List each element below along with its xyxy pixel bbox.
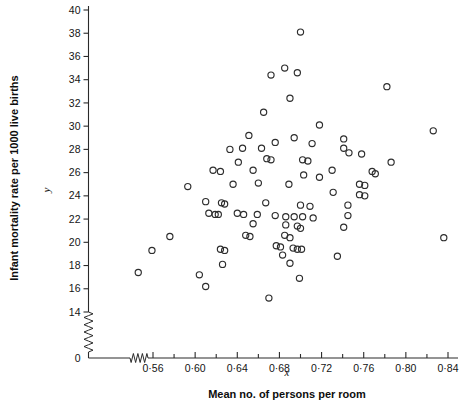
x-axis-title: Mean no. of persons per room [208, 388, 366, 400]
data-point [334, 253, 340, 259]
data-point [294, 70, 300, 76]
data-point [167, 233, 173, 239]
x-tick-label-4: 0·72 [311, 362, 332, 374]
data-point [345, 212, 351, 218]
data-point [230, 181, 236, 187]
y-tick-label-28: 28 [69, 143, 81, 155]
data-point [266, 295, 272, 301]
data-point [291, 214, 297, 220]
data-point [239, 145, 245, 151]
data-point [261, 109, 267, 115]
data-point [210, 167, 216, 173]
data-point [290, 245, 296, 251]
data-point [258, 145, 264, 151]
data-point [234, 210, 240, 216]
data-point [287, 95, 293, 101]
data-point [196, 272, 202, 278]
data-point [250, 221, 256, 227]
data-point [268, 72, 274, 78]
data-point [388, 159, 394, 165]
data-point [309, 140, 315, 146]
y-tick-label-20: 20 [69, 236, 81, 248]
data-point [227, 146, 233, 152]
y-axis-break-icon [84, 312, 93, 352]
data-point [272, 212, 278, 218]
data-point [341, 224, 347, 230]
y-tick-label-26: 26 [69, 166, 81, 178]
data-point [135, 269, 141, 275]
data-point [268, 157, 274, 163]
data-point [254, 211, 260, 217]
data-point [330, 189, 336, 195]
data-point [149, 247, 155, 253]
data-point [287, 260, 293, 266]
data-point [277, 244, 283, 250]
y-tick-label-32: 32 [69, 97, 81, 109]
x-tick-label-7: 0·84 [437, 362, 458, 374]
y-tick-label-16: 16 [69, 282, 81, 294]
data-point [301, 172, 307, 178]
data-point [283, 222, 289, 228]
data-point [286, 181, 292, 187]
data-point [185, 183, 191, 189]
data-point [279, 252, 285, 258]
y-tick-label-36: 36 [69, 50, 81, 62]
y-tick-label-30: 30 [69, 120, 81, 132]
data-point [297, 29, 303, 35]
x-tick-label-1: 0·60 [185, 362, 206, 374]
data-point [316, 122, 322, 128]
data-point [243, 232, 249, 238]
y-tick-label-38: 38 [69, 27, 81, 39]
x-axis-variable-label: x [284, 366, 290, 378]
data-point [263, 200, 269, 206]
data-point [310, 215, 316, 221]
data-point [287, 235, 293, 241]
y-tick-label-18: 18 [69, 259, 81, 271]
data-point [359, 151, 365, 157]
x-tick-label-6: 0·80 [395, 362, 416, 374]
data-point [296, 275, 302, 281]
data-point [247, 233, 253, 239]
x-tick-label-5: 0·76 [353, 362, 374, 374]
data-point [297, 202, 303, 208]
data-point [219, 261, 225, 267]
x-tick-label-0: 0·56 [142, 362, 163, 374]
data-point [203, 199, 209, 205]
data-point [217, 246, 223, 252]
data-point [235, 159, 241, 165]
data-point [307, 203, 313, 209]
data-point [300, 214, 306, 220]
data-point [222, 247, 228, 253]
data-point [298, 246, 304, 252]
y-axis-title: Infant mortality rate per 1000 live birt… [8, 75, 20, 280]
x-tick-label-2: 0·64 [227, 362, 248, 374]
data-point [291, 135, 297, 141]
data-point [283, 214, 289, 220]
data-point [272, 139, 278, 145]
plot-svg: 141618202224262830323436384000·560·600·6… [0, 0, 463, 409]
data-point [430, 128, 436, 134]
data-point [329, 167, 335, 173]
data-point [250, 167, 256, 173]
data-point [206, 210, 212, 216]
y-axis-variable-label: y [40, 187, 52, 193]
data-point [264, 156, 270, 162]
y-tick-label-22: 22 [69, 213, 81, 225]
data-point [282, 65, 288, 71]
data-point-group [135, 29, 447, 301]
data-point [241, 211, 247, 217]
data-point [441, 235, 447, 241]
y-tick-label-24: 24 [69, 189, 81, 201]
data-point [341, 145, 347, 151]
data-point [346, 150, 352, 156]
data-point [273, 243, 279, 249]
y-tick-label-40: 40 [69, 4, 81, 16]
data-point [246, 132, 252, 138]
data-point [341, 136, 347, 142]
data-point [255, 180, 261, 186]
data-point [384, 84, 390, 90]
data-point [345, 202, 351, 208]
data-point [316, 174, 322, 180]
y-tick-label-0: 0 [75, 352, 81, 364]
y-tick-label-14: 14 [69, 306, 81, 318]
